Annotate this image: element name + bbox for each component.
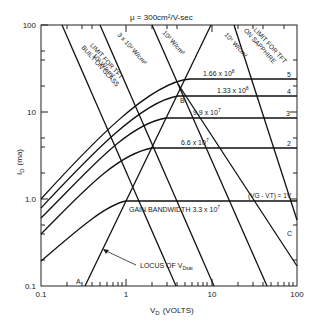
glass-limit-label: LIMIT FOR TFT BUILT ON GLASS [80,38,127,88]
curve-label-5: 5 [287,71,291,78]
locus-leader-line [104,250,136,265]
power-label-3e2: 3 x 10² W/cm² [116,31,149,66]
x-tick-1: 1 [124,290,129,299]
curve-label-4: 4 [287,88,291,95]
locus-label: LOCUS OF VDsat [140,262,193,271]
x-tick-10: 10 [208,290,217,299]
svg-text:3 x 10² W/cm²: 3 x 10² W/cm² [116,31,149,66]
power-label-1e3: 10³ W/cm² [161,29,187,57]
gb-label-2: 6.6 x 107 [181,137,209,146]
y-axis-ticks [41,25,297,260]
limit-1e2 [62,25,176,286]
chart-title: μ = 300cm²/V-sec [130,13,193,22]
curve-label-3: 3 [286,110,290,117]
x-tick-0-1: 0.1 [35,290,47,299]
y-tick-1: 1.0 [25,195,37,204]
gb-label-5: 1.66 x 108 [203,68,235,77]
y-axis-title: ID(ma) [15,149,25,175]
x-axis-title: VD(VOLTS) [150,306,194,316]
gb-label-3: 9.9 x 107 [193,107,221,116]
sapphire-limit-label: LIMIT FOR TFT ON SAPPHIRE [243,21,289,69]
y-tick-10: 10 [27,108,36,117]
curve-label-2: 2 [287,140,291,147]
x-tick-100: 100 [290,290,304,299]
drain-curves [41,79,297,261]
point-c-label: C [287,230,292,237]
curve-vg-2v [41,148,297,234]
point-a-label: A [76,278,81,285]
power-label-1e4: 10⁴ W/cm² [223,31,249,59]
limit-3e2 [100,25,214,286]
y-tick-100: 100 [23,21,37,30]
curve-label-1v: (VG - VT) = 1V [248,192,292,200]
id-vd-chart: 100 10 1.0 0.1 0.1 1 10 100 VD(VOLTS) ID… [0,0,318,327]
curve-vg-5v [41,79,297,199]
gb-label-1: GAIN BANDWIDTH 3.3 x 107 [129,204,220,213]
point-b-label: B [180,97,185,104]
gb-label-4: 1.33 x 108 [217,85,249,94]
svg-text:ID(ma): ID(ma) [15,149,25,175]
svg-text:10⁴ W/cm²: 10⁴ W/cm² [223,31,249,59]
svg-text:10³ W/cm²: 10³ W/cm² [161,29,187,57]
limit-1e3 [152,25,267,286]
